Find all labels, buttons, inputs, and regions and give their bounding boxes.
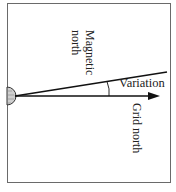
grid-north-arrowhead-icon [148,92,160,100]
variation-label: Variation [119,77,165,89]
grid-north-label: Grid north [131,103,143,153]
variation-arc [107,82,109,97]
origin-symbol-icon [7,87,16,105]
magnetic-north-label-line1: Magnetic [84,30,96,75]
magnetic-north-label-line2: north [70,30,82,55]
diagram-canvas [0,0,176,192]
